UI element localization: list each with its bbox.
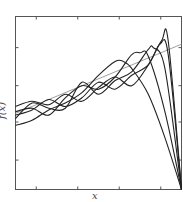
series-curve-2 — [16, 51, 182, 190]
x-axis-label: x — [92, 190, 98, 201]
y-axis-label: f(x) — [0, 105, 19, 119]
series-curve-3 — [16, 46, 182, 190]
series-group — [16, 29, 182, 190]
series-curve-5 — [16, 29, 182, 190]
line-chart — [0, 0, 183, 202]
